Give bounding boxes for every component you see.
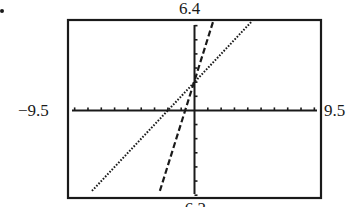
axes <box>72 25 317 195</box>
plot-series <box>92 21 252 191</box>
series-line-1 <box>92 21 252 191</box>
graph-window <box>0 0 357 207</box>
series-line-2 <box>160 21 213 191</box>
